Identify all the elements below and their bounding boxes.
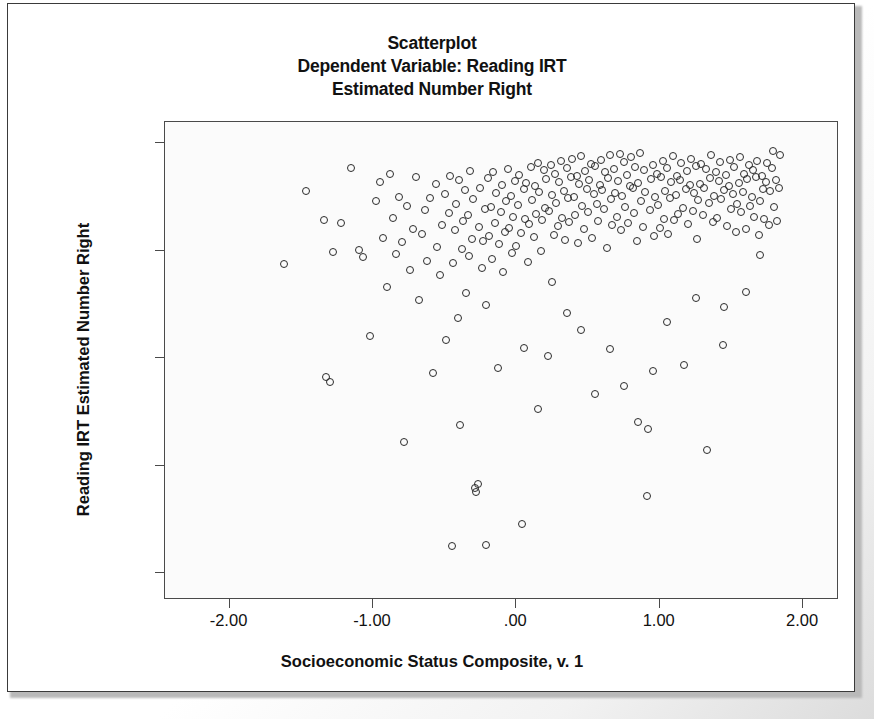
scatter-point	[646, 206, 654, 214]
scatter-point	[581, 167, 589, 175]
scatter-point	[597, 156, 605, 164]
scatter-point	[568, 155, 576, 163]
scatter-point	[620, 382, 628, 390]
scatter-point	[743, 175, 751, 183]
scatter-point	[441, 190, 449, 198]
x-tick-mark	[372, 599, 373, 608]
scatter-point	[639, 223, 647, 231]
scatter-point	[542, 175, 550, 183]
scatter-point	[742, 288, 750, 296]
scatter-point	[389, 214, 397, 222]
scatter-point	[608, 221, 616, 229]
scatter-point	[756, 197, 764, 205]
scatter-point	[465, 252, 473, 260]
scatter-point	[432, 180, 440, 188]
scatter-point	[540, 166, 548, 174]
scatter-point	[492, 189, 500, 197]
scatter-point	[746, 202, 754, 210]
scatter-point	[535, 188, 543, 196]
scatter-point	[520, 344, 528, 352]
scatter-point	[488, 255, 496, 263]
scatter-point	[651, 193, 659, 201]
scatter-point	[429, 369, 437, 377]
scatter-point	[753, 157, 761, 165]
scatter-point	[616, 150, 624, 158]
scatter-point	[494, 364, 502, 372]
scatter-point	[476, 184, 484, 192]
scatter-point	[534, 159, 542, 167]
scatter-point	[768, 164, 776, 172]
scatter-point	[660, 215, 668, 223]
y-tick-mark	[155, 465, 164, 466]
scatter-point	[606, 151, 614, 159]
scatter-point	[525, 220, 533, 228]
scatter-point	[735, 179, 743, 187]
scatter-point	[482, 541, 490, 549]
scatter-point	[454, 314, 462, 322]
scatter-point	[421, 206, 429, 214]
scatter-point	[547, 161, 555, 169]
scatter-point	[482, 301, 490, 309]
scatter-point	[403, 202, 411, 210]
scatter-point	[720, 303, 728, 311]
y-tick-mark	[155, 142, 164, 143]
scatter-point	[669, 152, 677, 160]
scatter-point	[544, 352, 552, 360]
scatter-point	[468, 235, 476, 243]
scatter-point	[554, 222, 562, 230]
scatter-point	[693, 235, 701, 243]
x-tick-mark	[802, 599, 803, 608]
scatter-point	[634, 179, 642, 187]
scatter-point	[530, 233, 538, 241]
scatter-point	[750, 213, 758, 221]
scatter-point	[518, 520, 526, 528]
scatter-point	[497, 208, 505, 216]
scatter-point	[641, 188, 649, 196]
scatter-point	[663, 318, 671, 326]
scatter-point	[689, 207, 697, 215]
chart-title-block: Scatterplot Dependent Variable: Reading …	[8, 32, 856, 101]
scatter-point	[624, 219, 632, 227]
scatter-point	[577, 326, 585, 334]
x-tick-mark	[515, 599, 516, 608]
scatter-point	[739, 188, 747, 196]
scatter-point	[643, 492, 651, 500]
scatter-point	[684, 220, 692, 228]
scatter-point	[716, 158, 724, 166]
scatter-point	[703, 446, 711, 454]
scatter-point	[775, 184, 783, 192]
scatter-point	[366, 332, 374, 340]
scatter-point	[656, 224, 664, 232]
scatter-point	[469, 195, 477, 203]
x-tick-label: -1.00	[317, 611, 427, 630]
scatter-point	[550, 231, 558, 239]
scatter-point	[633, 237, 641, 245]
scatter-point	[563, 309, 571, 317]
scatter-point	[732, 228, 740, 236]
scatter-point	[472, 488, 480, 496]
scatter-point	[491, 219, 499, 227]
scatter-point	[600, 205, 608, 213]
scatter-point	[729, 190, 737, 198]
scatter-point	[663, 164, 671, 172]
scatter-point	[580, 225, 588, 233]
scatter-point	[594, 217, 602, 225]
scatter-point	[733, 200, 741, 208]
scatter-point	[548, 191, 556, 199]
scatter-point	[705, 199, 713, 207]
scatter-point	[383, 283, 391, 291]
scatter-point	[461, 186, 469, 194]
scatter-point	[398, 238, 406, 246]
scatter-point	[498, 181, 506, 189]
scatter-point	[571, 211, 579, 219]
scatter-point	[590, 190, 598, 198]
scatter-point	[280, 260, 288, 268]
scatter-point	[448, 542, 456, 550]
scatter-point	[552, 199, 560, 207]
scatter-point	[636, 149, 644, 157]
scatter-point	[515, 171, 523, 179]
scatter-point	[508, 249, 516, 257]
scatter-point	[359, 253, 367, 261]
scatter-point	[474, 480, 482, 488]
scatter-point	[433, 243, 441, 251]
